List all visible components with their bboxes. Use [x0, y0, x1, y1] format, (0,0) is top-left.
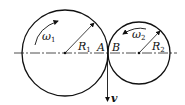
omega-2-label: ω2: [132, 28, 145, 42]
point-a-label: A: [96, 41, 105, 54]
radius-2-label: R2: [151, 40, 165, 54]
omega-1-label: ω1: [42, 30, 55, 44]
point-b-label: B: [111, 41, 120, 54]
velocity-label: v: [111, 92, 118, 105]
radius-1-label: R1: [77, 40, 91, 54]
disks-diagram: ω1 R1 A B ω2 R2 v: [0, 0, 185, 105]
